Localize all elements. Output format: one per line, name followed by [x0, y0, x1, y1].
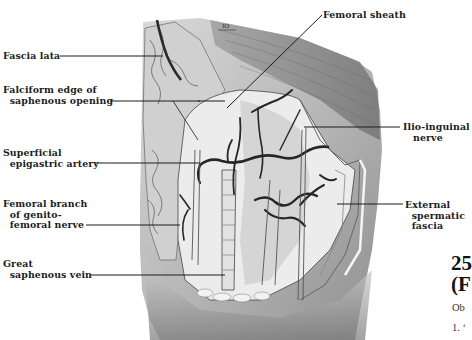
label-great-saphenous-vein: Great saphenous vein	[3, 259, 92, 280]
label-ilio-inguinal-nerve: Ilio-inguinal nerve	[403, 122, 470, 143]
label-external-spermatic-fascia: External spermatic fascia	[405, 200, 465, 232]
figure-title-heading: (F	[451, 273, 471, 295]
label-femoral-sheath: Femoral sheath	[323, 10, 406, 21]
figure-number-heading: 25	[451, 252, 472, 274]
label-femoral-branch-genitofemoral-nerve: Femoral branch of genito- femoral nerve	[3, 199, 87, 231]
label-superficial-epigastric-artery: Superficial epigastric artery	[3, 148, 99, 169]
label-falciform-edge: Falciform edge of saphenous opening	[3, 85, 113, 106]
body-text-line-1: Ob	[452, 302, 465, 313]
label-fascia-lata: Fascia lata	[3, 51, 60, 62]
body-text-line-2: 1. ‘	[452, 322, 466, 333]
scale-mark: IO	[222, 22, 229, 30]
